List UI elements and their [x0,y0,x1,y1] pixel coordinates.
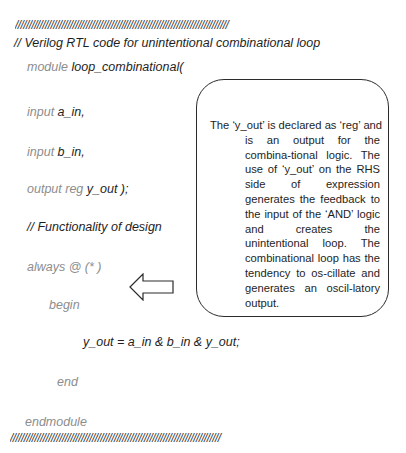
port-b-in: b_in, [58,145,85,159]
explanation-callout: The ‘y_out’ is declared as ‘reg’ and is … [196,79,389,317]
keyword-module: module [27,60,68,74]
keyword-begin: begin [49,298,80,312]
keyword-input: input [27,105,54,119]
separator-bottom: ////////////////////////////////////////… [10,431,351,445]
code-line-module: module loop_combinational( [27,60,183,74]
sensitivity-list: @ (* ) [69,260,102,274]
keyword-output-reg: output reg [27,182,83,196]
code-line-endmodule: endmodule [25,415,87,429]
port-a-in: a_in, [58,105,85,119]
callout-body: is an output for the combina-tional logi… [210,133,380,311]
separator-top: ////////////////////////////////////////… [15,18,357,32]
assignment-statement: y_out = a_in & b_in & y_out; [83,335,240,349]
module-name: loop_combinational( [71,60,183,74]
keyword-end: end [57,375,78,389]
code-line-input-b: input b_in, [27,145,85,159]
code-line-end: end [57,375,78,389]
header-comment: // Verilog RTL code for unintentional co… [14,36,320,50]
code-line-begin: begin [49,298,80,312]
callout-first-line: The ‘y_out’ is declared as ‘reg’ and [210,118,380,133]
keyword-input: input [27,145,54,159]
code-line-always: always @ (* ) [27,260,102,274]
functionality-comment: // Functionality of design [27,220,162,234]
code-line-output: output reg y_out ); [27,182,128,196]
code-line-assignment: y_out = a_in & b_in & y_out; [83,335,240,349]
callout-text: The ‘y_out’ is declared as ‘reg’ and is … [210,118,380,310]
keyword-endmodule: endmodule [25,415,87,429]
code-line-input-a: input a_in, [27,105,85,119]
left-arrow-icon [129,273,175,301]
port-y-out: y_out ); [87,182,129,196]
keyword-always: always [27,260,65,274]
